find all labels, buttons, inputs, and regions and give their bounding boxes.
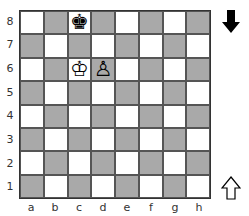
chess-board: ♚♔♙ <box>19 10 211 199</box>
square-e5[interactable] <box>115 81 139 104</box>
square-f2[interactable] <box>139 151 163 174</box>
rank-label: 3 <box>5 133 15 146</box>
rank-label: 4 <box>5 109 15 122</box>
file-label: f <box>139 201 163 214</box>
square-e6[interactable] <box>115 58 139 81</box>
square-e4[interactable] <box>115 105 139 128</box>
square-d4[interactable] <box>91 105 115 128</box>
square-d8[interactable] <box>91 11 115 34</box>
square-c7[interactable] <box>68 34 92 57</box>
square-a3[interactable] <box>20 128 44 151</box>
square-g4[interactable] <box>163 105 187 128</box>
rank-label: 1 <box>5 180 15 193</box>
square-d5[interactable] <box>91 81 115 104</box>
square-a7[interactable] <box>20 34 44 57</box>
square-b1[interactable] <box>44 175 68 198</box>
square-e8[interactable] <box>115 11 139 34</box>
square-h6[interactable] <box>186 58 210 81</box>
square-b3[interactable] <box>44 128 68 151</box>
square-b8[interactable] <box>44 11 68 34</box>
square-f1[interactable] <box>139 175 163 198</box>
square-c6[interactable]: ♔ <box>68 58 92 81</box>
square-e7[interactable] <box>115 34 139 57</box>
square-b7[interactable] <box>44 34 68 57</box>
file-label: h <box>187 201 211 214</box>
white-king-icon[interactable]: ♔ <box>70 59 89 80</box>
white-pawn-icon[interactable]: ♙ <box>94 59 113 80</box>
rank-label: 5 <box>5 86 15 99</box>
square-f4[interactable] <box>139 105 163 128</box>
square-b6[interactable] <box>44 58 68 81</box>
file-label: c <box>67 201 91 214</box>
rank-label: 2 <box>5 157 15 170</box>
square-g5[interactable] <box>163 81 187 104</box>
square-h4[interactable] <box>186 105 210 128</box>
square-a2[interactable] <box>20 151 44 174</box>
file-label: e <box>115 201 139 214</box>
square-h7[interactable] <box>186 34 210 57</box>
square-a4[interactable] <box>20 105 44 128</box>
square-e2[interactable] <box>115 151 139 174</box>
square-h2[interactable] <box>186 151 210 174</box>
square-f3[interactable] <box>139 128 163 151</box>
square-h5[interactable] <box>186 81 210 104</box>
square-f8[interactable] <box>139 11 163 34</box>
square-b5[interactable] <box>44 81 68 104</box>
square-h1[interactable] <box>186 175 210 198</box>
square-h8[interactable] <box>186 11 210 34</box>
square-d3[interactable] <box>91 128 115 151</box>
square-d1[interactable] <box>91 175 115 198</box>
square-e1[interactable] <box>115 175 139 198</box>
file-label: g <box>163 201 187 214</box>
square-h3[interactable] <box>186 128 210 151</box>
square-g2[interactable] <box>163 151 187 174</box>
square-d7[interactable] <box>91 34 115 57</box>
rank-label: 7 <box>5 38 15 51</box>
square-e3[interactable] <box>115 128 139 151</box>
square-g7[interactable] <box>163 34 187 57</box>
square-a5[interactable] <box>20 81 44 104</box>
square-c4[interactable] <box>68 105 92 128</box>
square-a6[interactable] <box>20 58 44 81</box>
square-c3[interactable] <box>68 128 92 151</box>
file-label: d <box>91 201 115 214</box>
square-a8[interactable] <box>20 11 44 34</box>
square-c8[interactable]: ♚ <box>68 11 92 34</box>
square-a1[interactable] <box>20 175 44 198</box>
square-b4[interactable] <box>44 105 68 128</box>
square-c1[interactable] <box>68 175 92 198</box>
square-c5[interactable] <box>68 81 92 104</box>
square-d2[interactable] <box>91 151 115 174</box>
square-f5[interactable] <box>139 81 163 104</box>
square-g6[interactable] <box>163 58 187 81</box>
square-b2[interactable] <box>44 151 68 174</box>
square-f7[interactable] <box>139 34 163 57</box>
square-g1[interactable] <box>163 175 187 198</box>
rank-label: 8 <box>5 15 15 28</box>
square-f6[interactable] <box>139 58 163 81</box>
square-c2[interactable] <box>68 151 92 174</box>
file-label: b <box>43 201 67 214</box>
black-arrow-down-icon <box>221 10 241 38</box>
white-arrow-up-icon <box>221 176 241 204</box>
square-g3[interactable] <box>163 128 187 151</box>
file-label: a <box>19 201 43 214</box>
rank-label: 6 <box>5 62 15 75</box>
square-g8[interactable] <box>163 11 187 34</box>
black-king-icon[interactable]: ♚ <box>70 12 89 33</box>
square-d6[interactable]: ♙ <box>91 58 115 81</box>
